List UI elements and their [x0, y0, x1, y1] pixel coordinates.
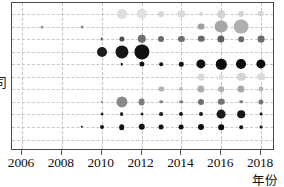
- data-bubble: [159, 11, 165, 17]
- data-bubble: [260, 126, 263, 129]
- data-bubble: [219, 74, 224, 79]
- x-axis-tick-label: 2008: [48, 155, 74, 171]
- data-bubble: [140, 113, 143, 116]
- data-bubble: [180, 100, 184, 104]
- data-bubble: [159, 87, 164, 92]
- gridline-horizontal: [12, 77, 273, 78]
- x-axis-tick-label: 2012: [127, 155, 153, 171]
- data-bubble: [115, 45, 128, 58]
- data-bubble: [120, 112, 124, 116]
- data-bubble: [258, 99, 263, 104]
- data-bubble: [239, 125, 243, 129]
- data-bubble: [100, 38, 103, 41]
- data-bubble: [137, 35, 145, 43]
- data-bubble: [258, 87, 263, 92]
- data-bubble: [258, 36, 265, 43]
- x-axis-tick-label: 2006: [8, 155, 34, 171]
- data-bubble: [256, 60, 265, 69]
- data-bubble: [136, 9, 146, 19]
- data-bubble: [199, 112, 203, 116]
- data-bubble: [236, 59, 246, 69]
- data-bubble: [160, 100, 164, 104]
- data-bubble: [139, 62, 144, 67]
- data-bubble: [218, 99, 224, 105]
- data-bubble: [117, 9, 127, 19]
- data-bubble: [97, 47, 107, 57]
- x-axis-tick-label: 2018: [247, 155, 273, 171]
- gridline-vertical: [22, 3, 23, 149]
- data-bubble: [179, 112, 183, 116]
- data-bubble: [197, 60, 206, 69]
- data-bubble: [237, 73, 245, 81]
- data-bubble: [258, 11, 264, 17]
- data-bubble: [257, 73, 265, 81]
- data-bubble: [119, 37, 124, 42]
- data-bubble: [159, 125, 164, 130]
- x-axis-title: 年份: [252, 170, 278, 187]
- data-bubble: [178, 36, 184, 42]
- bubble-chart-figure: 司 2006200820102012201420162018 年份: [0, 0, 284, 187]
- gridline-vertical: [62, 3, 63, 149]
- data-bubble: [218, 87, 224, 93]
- data-bubble: [100, 101, 103, 104]
- data-bubble: [198, 124, 204, 130]
- data-bubble: [217, 10, 225, 18]
- data-bubble: [198, 23, 205, 30]
- data-bubble: [116, 96, 127, 107]
- data-bubble: [80, 25, 83, 28]
- x-axis-tick-label: 2016: [207, 155, 233, 171]
- data-bubble: [198, 99, 204, 105]
- x-axis-tick-labels: 2006200820102012201420162018: [0, 155, 284, 173]
- data-bubble: [178, 10, 185, 17]
- data-bubble: [238, 11, 244, 17]
- data-bubble: [198, 36, 204, 42]
- data-bubble: [198, 73, 205, 80]
- data-bubble: [160, 112, 164, 116]
- data-bubble: [198, 86, 205, 93]
- data-bubble: [179, 87, 183, 91]
- data-bubble: [138, 124, 144, 130]
- data-bubble: [179, 62, 183, 66]
- data-bubble: [218, 36, 225, 43]
- data-bubble: [138, 98, 145, 105]
- data-bubble: [134, 44, 149, 59]
- data-bubble: [100, 125, 104, 129]
- data-bubble: [119, 124, 125, 130]
- data-bubble: [158, 36, 164, 42]
- data-bubble: [215, 20, 228, 33]
- data-bubble: [179, 125, 184, 130]
- data-bubble: [260, 113, 263, 116]
- data-bubble: [238, 36, 244, 42]
- data-bubble: [199, 12, 203, 16]
- data-bubble: [120, 63, 123, 66]
- plot-area: [11, 2, 274, 150]
- plot-inner: [12, 3, 273, 149]
- data-bubble: [239, 100, 243, 104]
- data-bubble: [237, 111, 245, 119]
- data-bubble: [238, 86, 245, 93]
- data-bubble: [100, 113, 103, 116]
- gridline-horizontal: [12, 140, 273, 141]
- x-axis-tick-label: 2010: [88, 155, 114, 171]
- data-bubble: [216, 59, 226, 69]
- data-bubble: [234, 19, 249, 34]
- gridline-horizontal: [12, 89, 273, 90]
- x-axis-tick-label: 2014: [167, 155, 193, 171]
- data-bubble: [40, 25, 43, 28]
- data-bubble: [217, 110, 226, 119]
- data-bubble: [218, 124, 224, 130]
- data-bubble: [160, 62, 164, 66]
